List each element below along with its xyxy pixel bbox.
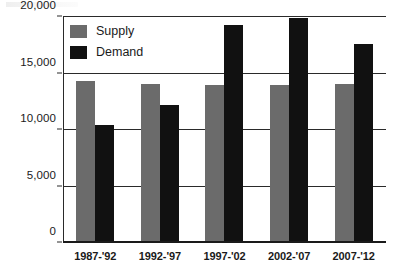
y-axis-tick-label: 10,000 [20, 112, 56, 124]
bar-group: 2007-'12 [321, 17, 386, 243]
chart-legend: Supply Demand [70, 24, 143, 59]
x-axis-line [63, 241, 386, 243]
legend-item-supply: Supply [70, 24, 143, 38]
bar-pair [321, 17, 386, 243]
legend-label-demand: Demand [96, 45, 143, 59]
legend-item-demand: Demand [70, 45, 143, 59]
y-axis-tick-mark [57, 72, 62, 73]
y-axis-tick-label: 15,000 [20, 56, 56, 68]
bar-chart: 05,00010,00015,00020,000 1987-'921992-'9… [0, 0, 394, 278]
bar-pair [192, 17, 257, 243]
y-axis-tick-label: 5,000 [27, 169, 56, 181]
y-axis-tick-mark [57, 185, 62, 186]
bar-supply [335, 84, 354, 243]
y-axis-tick-label: 0 [50, 225, 57, 237]
y-axis-tick-label: 20,000 [20, 0, 56, 11]
bar-group: 2002-'07 [257, 17, 322, 243]
y-axis-tick-mark [57, 16, 62, 17]
bar-supply [141, 84, 160, 243]
bar-demand [160, 105, 179, 243]
bar-pair [257, 17, 322, 243]
bar-demand [289, 18, 308, 243]
bar-demand [354, 44, 373, 243]
x-axis-tick-label: 2007-'12 [333, 250, 375, 262]
x-axis-tick-label: 2002-'07 [268, 250, 310, 262]
bar-demand [224, 25, 243, 243]
legend-swatch-demand [70, 46, 87, 59]
legend-label-supply: Supply [96, 24, 134, 38]
x-axis-tick-label: 1992-'97 [139, 250, 181, 262]
bar-group: 1997-'02 [192, 17, 257, 243]
x-axis-tick-label: 1997-'02 [203, 250, 245, 262]
bar-supply [205, 85, 224, 243]
bar-supply [270, 85, 289, 243]
y-axis-tick-mark [57, 129, 62, 130]
x-axis-tick-label: 1987-'92 [74, 250, 116, 262]
bar-supply [76, 81, 95, 243]
legend-swatch-supply [70, 25, 87, 38]
bar-demand [95, 125, 114, 243]
y-axis-tick-mark [57, 242, 62, 243]
